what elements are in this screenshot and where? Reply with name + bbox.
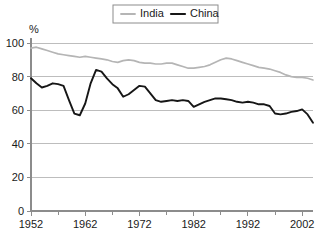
- chart-container: 020406080100 195219621972198219922002 % …: [0, 0, 324, 248]
- y-tick-label-40: 40: [12, 138, 24, 150]
- y-axis-unit-label: %: [29, 23, 39, 35]
- y-tick-label-60: 60: [12, 104, 24, 116]
- y-tick-label-80: 80: [12, 71, 24, 83]
- x-tick-label-1982: 1982: [181, 218, 205, 230]
- x-tick-label-1952: 1952: [19, 218, 43, 230]
- x-tick-label-1972: 1972: [127, 218, 151, 230]
- x-tick-label-1992: 1992: [236, 218, 260, 230]
- data-series-group: [31, 47, 313, 123]
- chart-legend: IndiaChina: [113, 5, 220, 23]
- legend-label-india: India: [140, 7, 165, 19]
- line-chart: 020406080100 195219621972198219922002 % …: [0, 0, 324, 248]
- series-line-india: [31, 47, 313, 80]
- y-tick-label-0: 0: [18, 205, 24, 217]
- legend-label-china: China: [190, 7, 220, 19]
- x-tick-label-1962: 1962: [73, 218, 97, 230]
- series-line-china: [31, 70, 313, 123]
- y-tick-label-20: 20: [12, 171, 24, 183]
- x-axis-ticks: 195219621972198219922002: [19, 211, 315, 230]
- x-tick-label-2002: 2002: [290, 218, 314, 230]
- y-axis-ticks: 020406080100: [6, 37, 31, 217]
- y-tick-label-100: 100: [6, 37, 24, 49]
